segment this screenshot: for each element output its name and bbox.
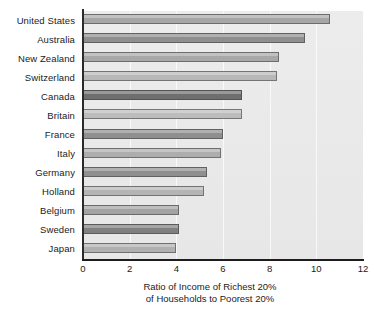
y-axis-label: Britain xyxy=(47,110,75,122)
y-axis-label: Australia xyxy=(37,34,75,46)
x-axis-tick-label: 4 xyxy=(164,263,188,274)
y-axis-label: Holland xyxy=(42,186,75,198)
x-axis-line xyxy=(82,259,364,261)
bar-highlight xyxy=(84,34,304,37)
y-axis-label: Sweden xyxy=(40,224,75,236)
gridline xyxy=(270,11,271,259)
gridline xyxy=(363,11,364,259)
bar-highlight xyxy=(84,225,178,228)
bar-highlight xyxy=(84,53,278,56)
x-axis-tick-label: 10 xyxy=(304,263,328,274)
x-axis-tick-label: 12 xyxy=(351,263,375,274)
bar xyxy=(83,90,245,103)
y-axis-category-labels: United StatesAustraliaNew ZealandSwitzer… xyxy=(0,11,78,259)
y-axis-line xyxy=(82,9,84,261)
y-axis-label: Belgium xyxy=(40,205,75,217)
x-axis-title-line-1: Ratio of Income of Richest 20% xyxy=(60,281,360,293)
y-axis-label: New Zealand xyxy=(18,53,75,65)
x-axis-title: Ratio of Income of Richest 20% of Househ… xyxy=(60,281,360,305)
bar-highlight xyxy=(84,244,175,247)
bar xyxy=(83,71,280,84)
bar-highlight xyxy=(84,168,206,171)
x-axis-tick-label: 8 xyxy=(258,263,282,274)
bar xyxy=(83,186,207,199)
bar xyxy=(83,52,282,65)
bar xyxy=(83,205,182,218)
bar-highlight xyxy=(84,110,241,113)
y-axis-label: Switzerland xyxy=(25,72,75,84)
bar-chart: United StatesAustraliaNew ZealandSwitzer… xyxy=(0,0,381,314)
bar-highlight xyxy=(84,206,178,209)
x-axis-tick-label: 6 xyxy=(211,263,235,274)
bar xyxy=(83,167,210,180)
bar-highlight xyxy=(84,15,329,18)
bar xyxy=(83,14,333,27)
plot-area xyxy=(83,11,363,259)
x-axis-tick-label: 2 xyxy=(118,263,142,274)
bar xyxy=(83,148,224,161)
y-axis-label: Germany xyxy=(35,167,75,179)
bar-highlight xyxy=(84,72,276,75)
bar xyxy=(83,224,182,237)
y-axis-label: Italy xyxy=(57,148,75,160)
bar-highlight xyxy=(84,91,241,94)
bar-highlight xyxy=(84,187,203,190)
bar-highlight xyxy=(84,130,222,133)
y-axis-label: France xyxy=(45,129,75,141)
x-axis-title-line-2: of Households to Poorest 20% xyxy=(60,293,360,305)
y-axis-label: United States xyxy=(17,15,75,27)
gridline xyxy=(316,11,317,259)
y-axis-label: Japan xyxy=(49,243,75,255)
bar xyxy=(83,243,179,256)
bar xyxy=(83,129,226,142)
bar xyxy=(83,109,245,122)
bar xyxy=(83,33,308,46)
y-axis-label: Canada xyxy=(41,91,75,103)
bar-highlight xyxy=(84,149,220,152)
x-axis-tick-label: 0 xyxy=(71,263,95,274)
